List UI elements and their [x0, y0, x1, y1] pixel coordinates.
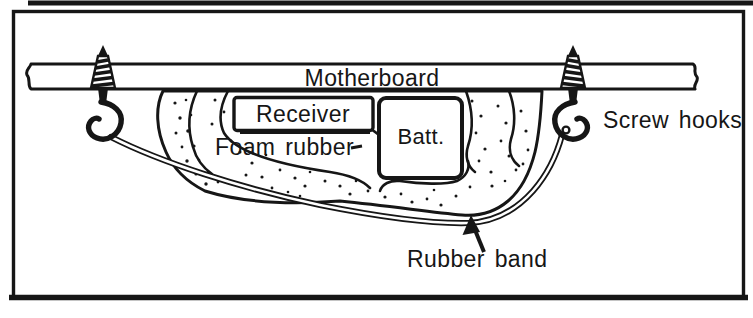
foam-rubber-label: Foam rubber: [215, 134, 354, 160]
diagram-svg: Motherboard Receiver Batt. Foam rubber S…: [0, 0, 753, 318]
motherboard-label: Motherboard: [305, 65, 440, 91]
screw-hooks-label: Screw hooks: [603, 107, 742, 133]
battery-label: Batt.: [397, 124, 444, 149]
diagram-figure: Motherboard Receiver Batt. Foam rubber S…: [0, 0, 753, 318]
receiver-label: Receiver: [256, 101, 350, 127]
rubber-band-label: Rubber band: [407, 246, 547, 272]
band-loop: [563, 127, 570, 134]
